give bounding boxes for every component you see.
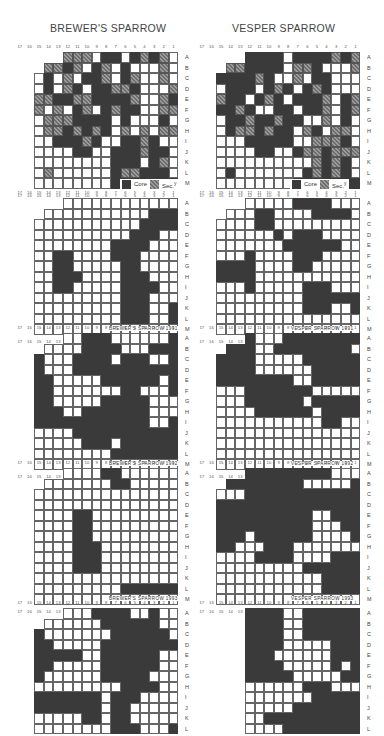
empty-cell	[216, 563, 226, 574]
territory-grid	[197, 333, 360, 470]
row-letter: J	[185, 563, 190, 574]
row-letter: I	[367, 552, 372, 563]
secondary-cell	[235, 63, 245, 74]
empty-cell	[197, 157, 207, 168]
row-letter: L	[367, 724, 371, 735]
empty-cell	[15, 640, 25, 651]
row-letter: L	[367, 449, 372, 460]
empty-cell	[111, 333, 121, 344]
empty-cell	[25, 272, 35, 283]
column-number: 16	[25, 44, 35, 49]
empty-cell	[15, 230, 25, 241]
empty-cell	[197, 209, 207, 220]
core-cell	[303, 724, 313, 735]
empty-cell	[92, 479, 102, 490]
column-number: 17	[197, 44, 207, 49]
empty-cell	[197, 619, 207, 630]
empty-cell	[63, 500, 73, 511]
column-number: 5	[130, 44, 140, 49]
empty-cell	[101, 314, 111, 325]
core-cell	[216, 542, 226, 553]
empty-cell	[149, 479, 159, 490]
core-cell	[322, 407, 332, 418]
empty-cell	[63, 386, 73, 397]
core-cell	[351, 479, 361, 490]
empty-cell	[159, 521, 169, 532]
empty-cell	[216, 428, 226, 439]
empty-cell	[207, 261, 217, 272]
row-letter: D	[185, 500, 190, 511]
empty-cell	[207, 375, 217, 386]
core-cell	[312, 468, 322, 479]
core-cell	[121, 240, 131, 251]
empty-cell	[255, 251, 265, 262]
core-cell	[140, 314, 150, 325]
column-number: 4	[322, 44, 332, 49]
core-cell	[303, 531, 313, 542]
core-cell	[130, 272, 140, 283]
empty-cell	[53, 209, 63, 220]
empty-cell	[341, 479, 351, 490]
empty-cell	[351, 209, 361, 220]
core-cell	[303, 282, 313, 293]
empty-cell	[274, 168, 284, 179]
core-cell	[130, 724, 140, 735]
empty-cell	[351, 314, 361, 325]
column-number: 6	[121, 600, 131, 605]
empty-cell	[207, 510, 217, 521]
empty-cell	[322, 531, 332, 542]
empty-cell	[264, 293, 274, 304]
core-cell	[303, 344, 313, 355]
empty-cell	[73, 608, 83, 619]
empty-cell	[44, 629, 54, 640]
core-cell	[63, 417, 73, 428]
core-cell	[82, 521, 92, 532]
empty-cell	[140, 105, 150, 116]
empty-cell	[15, 293, 25, 304]
empty-cell	[283, 157, 293, 168]
empty-cell	[322, 479, 332, 490]
row-letter: E	[185, 650, 189, 661]
empty-cell	[274, 261, 284, 272]
core-cell	[53, 692, 63, 703]
column-number: 17	[197, 460, 207, 465]
empty-cell	[351, 438, 361, 449]
core-cell	[149, 157, 159, 168]
empty-cell	[73, 157, 83, 168]
empty-cell	[235, 209, 245, 220]
empty-cell	[25, 209, 35, 220]
empty-cell	[159, 671, 169, 682]
empty-cell	[15, 650, 25, 661]
empty-cell	[101, 157, 111, 168]
empty-cell	[235, 396, 245, 407]
core-cell	[264, 489, 274, 500]
column-number: 1	[351, 44, 361, 49]
empty-cell	[216, 344, 226, 355]
core-cell	[351, 396, 361, 407]
empty-cell	[63, 671, 73, 682]
core-cell	[341, 724, 351, 735]
core-cell	[331, 650, 341, 661]
core-cell	[73, 136, 83, 147]
empty-cell	[92, 449, 102, 460]
empty-cell	[34, 230, 44, 241]
row-letter: D	[367, 500, 372, 511]
empty-cell	[101, 724, 111, 735]
row-letter: K	[367, 713, 371, 724]
empty-cell	[322, 219, 332, 230]
column-number: 11	[255, 44, 265, 49]
core-cell	[283, 479, 293, 490]
empty-cell	[255, 724, 265, 735]
core-cell	[101, 640, 111, 651]
column-number: 4	[140, 190, 150, 195]
core-cell	[245, 650, 255, 661]
empty-cell	[293, 354, 303, 365]
empty-cell	[274, 354, 284, 365]
core-cell	[264, 115, 274, 126]
core-cell	[245, 619, 255, 630]
empty-cell	[159, 552, 169, 563]
core-cell	[322, 365, 332, 376]
row-letter: F	[367, 251, 372, 262]
core-cell	[312, 303, 322, 314]
core-cell	[255, 52, 265, 63]
